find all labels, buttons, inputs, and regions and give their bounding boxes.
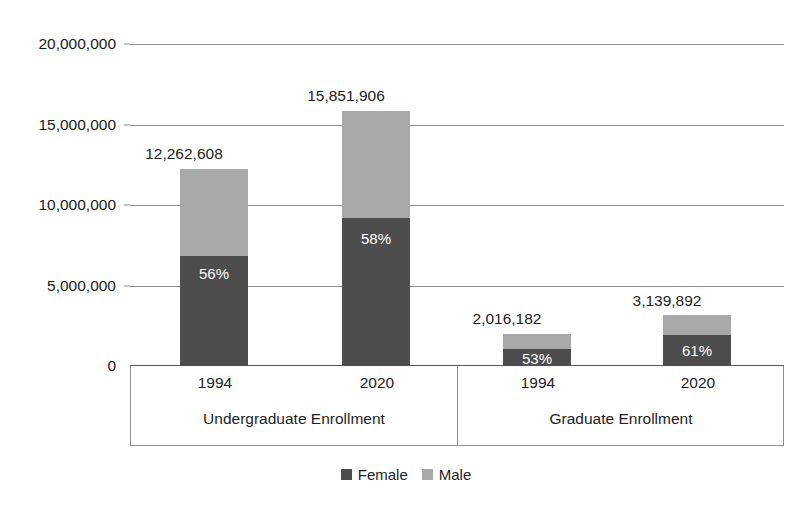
bar-total-label-grad-2020: 3,139,892 bbox=[592, 292, 742, 310]
bar-segment-male-undergrad-2020[interactable] bbox=[342, 111, 410, 218]
x-tick-label-undergrad-1994: 1994 bbox=[155, 374, 275, 392]
legend-swatch-male-icon bbox=[422, 469, 433, 480]
legend-swatch-female-icon bbox=[341, 469, 352, 480]
bar-total-label-undergrad-2020: 15,851,906 bbox=[271, 87, 421, 105]
bar-pct-label-undergrad-2020: 58% bbox=[342, 231, 410, 246]
bar-pct-label-grad-1994: 53% bbox=[503, 351, 571, 366]
bar-segment-male-undergrad-1994[interactable] bbox=[180, 169, 248, 256]
category-axis-box: 1994 2020 1994 2020 Undergraduate Enroll… bbox=[130, 366, 784, 446]
bar-segment-female-grad-2020[interactable]: 61% bbox=[663, 335, 731, 366]
gridline-20m bbox=[130, 44, 784, 45]
stacked-bar-chart: 20,000,000 15,000,000 10,000,000 5,000,0… bbox=[0, 0, 812, 514]
bar-pct-label-grad-2020: 61% bbox=[663, 343, 731, 358]
y-tick-label-10m: 10,000,000 bbox=[38, 196, 116, 214]
bar-grad-2020[interactable]: 61% bbox=[663, 315, 731, 366]
x-tick-label-undergrad-2020: 2020 bbox=[317, 374, 437, 392]
gridline-15m bbox=[130, 125, 784, 126]
bar-total-label-undergrad-1994: 12,262,608 bbox=[109, 145, 259, 163]
legend-label-male: Male bbox=[439, 466, 472, 483]
bar-undergrad-2020[interactable]: 58% bbox=[342, 111, 410, 366]
bar-segment-female-undergrad-1994[interactable]: 56% bbox=[180, 256, 248, 367]
plot-area: 12,262,608 56% 15,851,906 58% 2,016,182 … bbox=[130, 44, 784, 366]
bar-pct-label-undergrad-1994: 56% bbox=[180, 266, 248, 281]
y-tick-label-5m: 5,000,000 bbox=[47, 277, 116, 295]
bar-segment-male-grad-1994[interactable] bbox=[503, 334, 571, 349]
legend-label-female: Female bbox=[358, 466, 408, 483]
bar-segment-male-grad-2020[interactable] bbox=[663, 315, 731, 335]
bar-segment-female-undergrad-2020[interactable]: 58% bbox=[342, 218, 410, 366]
x-tick-label-grad-2020: 2020 bbox=[638, 374, 758, 392]
legend-item-female[interactable]: Female bbox=[341, 466, 408, 483]
legend-item-male[interactable]: Male bbox=[422, 466, 472, 483]
bar-undergrad-1994[interactable]: 56% bbox=[180, 169, 248, 366]
y-tick-label-20m: 20,000,000 bbox=[38, 35, 116, 53]
category-group-divider bbox=[457, 366, 458, 445]
legend: Female Male bbox=[0, 466, 812, 483]
group-label-graduate: Graduate Enrollment bbox=[458, 410, 784, 428]
bar-grad-1994[interactable]: 53% bbox=[503, 334, 571, 367]
y-tick-label-0: 0 bbox=[107, 357, 116, 375]
y-tick-label-15m: 15,000,000 bbox=[38, 116, 116, 134]
y-axis: 20,000,000 15,000,000 10,000,000 5,000,0… bbox=[0, 44, 124, 366]
x-tick-label-grad-1994: 1994 bbox=[478, 374, 598, 392]
bar-total-label-grad-1994: 2,016,182 bbox=[432, 310, 582, 328]
group-label-undergraduate: Undergraduate Enrollment bbox=[131, 410, 457, 428]
bar-segment-female-grad-1994[interactable]: 53% bbox=[503, 349, 571, 366]
